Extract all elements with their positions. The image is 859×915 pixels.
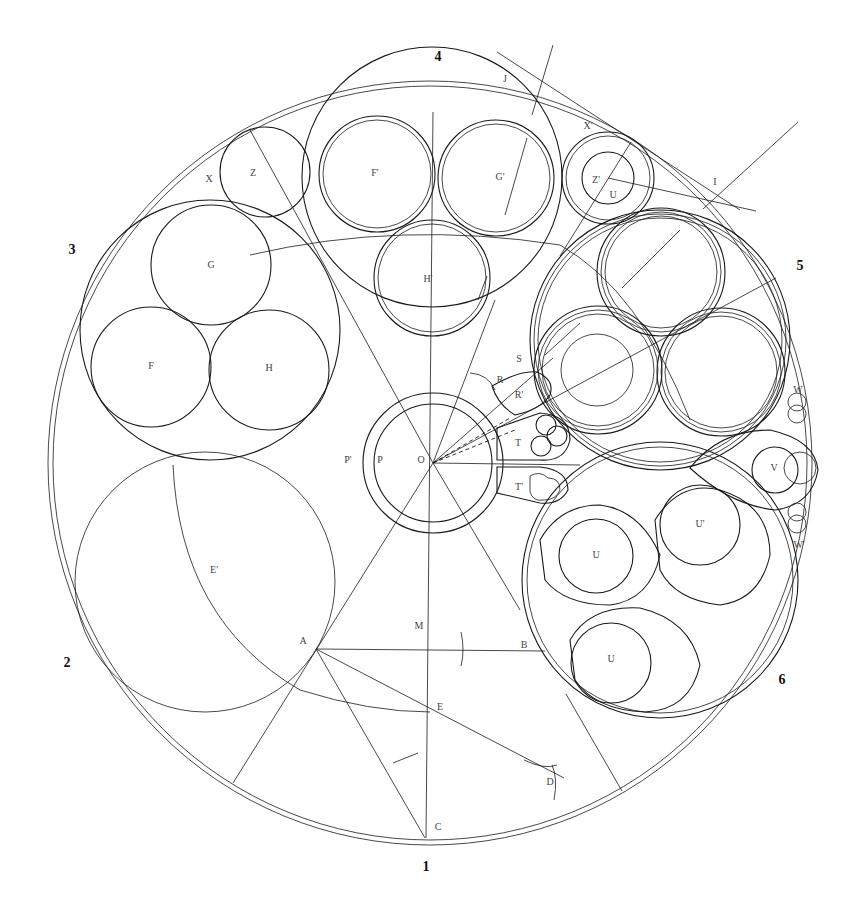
sector-number-3: 3 [69,242,76,257]
label-w: W [793,384,803,395]
sector-4-cluster [302,47,562,336]
sector-number-2: 2 [64,655,71,670]
label-u-1: U [592,549,600,560]
label-p-prime: P' [344,454,352,465]
label-u-2: U [607,653,615,664]
lobe-v [690,430,818,510]
label-u-prime: U' [695,518,704,529]
label-v: V [770,462,778,473]
sector-number-1: 1 [423,859,430,874]
label-i: I [713,176,716,187]
label-o: O [417,454,424,465]
sector-number-5: 5 [797,258,804,273]
sector-3-cluster [80,200,340,460]
label-e: E [437,701,443,712]
sector-number-6: 6 [779,672,786,687]
label-c: C [435,821,442,832]
label-b: B [521,639,528,650]
label-z: Z [250,167,256,178]
lobe-t [497,413,570,460]
label-f: F [148,360,154,371]
label-h-prime: H' [423,273,432,284]
label-j: J [503,73,507,84]
label-d: D [546,776,553,787]
label-z-prime: Z' [592,174,600,185]
lobe-t-prime [497,467,568,503]
rose-window-construction-diagram: X Z F' G' H' J X' Z' U I G F H S R R' T … [0,0,859,915]
diagram-svg: X Z F' G' H' J X' Z' U I G F H S R R' T … [0,0,859,915]
label-h: H [265,362,272,373]
label-f-prime: F' [371,167,379,178]
label-g: G [207,259,214,270]
label-g-prime: G' [495,171,504,182]
label-e-prime: E' [210,564,218,575]
label-r: R [497,374,504,385]
label-m: M [415,620,424,631]
label-t-prime: T' [515,481,523,492]
label-a: A [299,635,307,646]
circle-z [220,127,310,217]
label-x: X [205,173,213,184]
label-x-prime: X' [583,120,592,131]
label-u-small: U [609,189,617,200]
label-w-prime: W' [793,539,804,550]
label-s: S [516,353,522,364]
label-p: P [377,454,383,465]
label-r-prime: R' [515,389,524,400]
sector-number-4: 4 [435,49,442,64]
label-t: T [515,437,521,448]
